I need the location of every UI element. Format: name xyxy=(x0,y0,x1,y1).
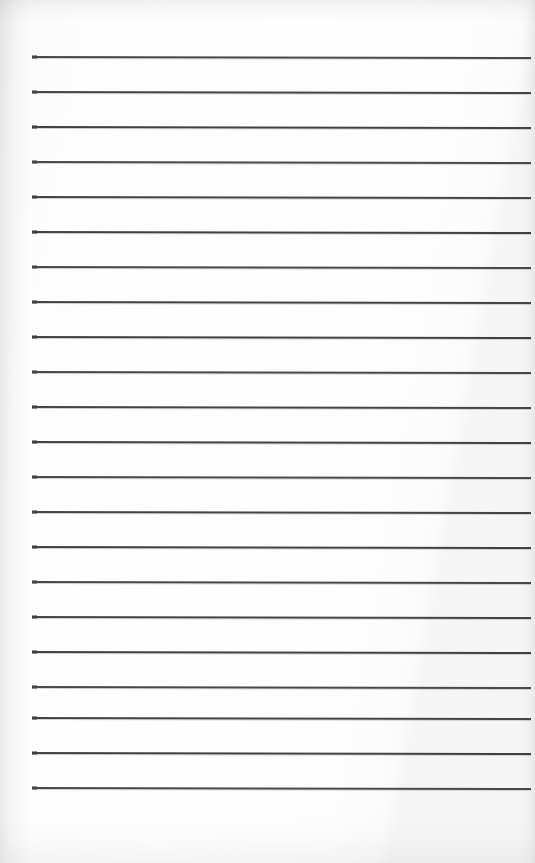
scanned-page xyxy=(0,0,535,863)
writing-area[interactable] xyxy=(32,40,531,800)
